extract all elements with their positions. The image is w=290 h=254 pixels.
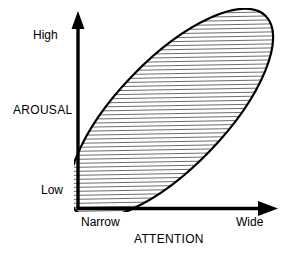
right-arrow-icon (258, 201, 278, 216)
arousal-attention-ellipse (38, 0, 290, 249)
up-arrow-icon (72, 11, 85, 29)
figure-canvas: High Low AROUSAL Narrow Wide ATTENTION (0, 0, 290, 254)
y-axis-high-tick-label: High (33, 29, 58, 41)
x-axis-title: ATTENTION (134, 233, 204, 245)
y-axis-title: AROUSAL (13, 104, 72, 116)
y-axis-low-tick-label: Low (41, 184, 63, 196)
x-axis-narrow-tick-label: Narrow (81, 216, 120, 228)
x-axis-wide-tick-label: Wide (236, 216, 263, 228)
